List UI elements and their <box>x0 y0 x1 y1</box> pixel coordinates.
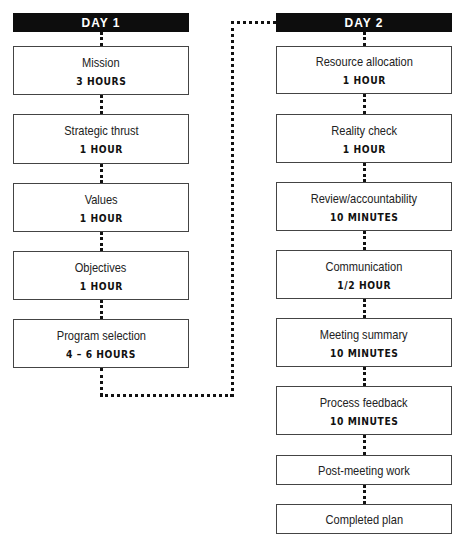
connector-day2-3 <box>363 231 366 250</box>
step-title: Strategic thrust <box>64 123 138 138</box>
step-title: Resource allocation <box>315 54 412 69</box>
day-2-label: DAY 2 <box>344 16 383 30</box>
step-title: Mission <box>82 55 120 70</box>
step-duration: 3 HOURS <box>76 76 126 87</box>
step-duration: 4 – 6 HOURS <box>66 349 136 360</box>
day-1-header: DAY 1 <box>13 13 189 32</box>
step-process-feedback: Process feedback 10 MINUTES <box>276 386 452 435</box>
connector-day-transition-bottom <box>100 394 233 397</box>
step-reality-check: Reality check 1 HOUR <box>276 114 452 163</box>
step-title: Post-meeting work <box>318 463 410 478</box>
step-duration: 10 MINUTES <box>330 212 398 223</box>
step-duration: 1/2 HOUR <box>337 280 391 291</box>
step-duration: 10 MINUTES <box>330 348 398 359</box>
connector-day2-0 <box>363 32 366 46</box>
step-program-selection: Program selection 4 – 6 HOURS <box>13 319 189 368</box>
connector-day2-1 <box>363 94 366 114</box>
step-communication: Communication 1/2 HOUR <box>276 250 452 299</box>
step-strategic-thrust: Strategic thrust 1 HOUR <box>13 114 189 164</box>
step-duration: 1 HOUR <box>342 144 385 155</box>
step-duration: 1 HOUR <box>79 144 122 155</box>
connector-day2-2 <box>363 163 366 182</box>
connector-day1-4 <box>100 300 103 319</box>
day-2-header: DAY 2 <box>276 13 452 32</box>
step-values: Values 1 HOUR <box>13 183 189 232</box>
step-objectives: Objectives 1 HOUR <box>13 251 189 300</box>
connector-day-transition-up <box>231 21 234 397</box>
step-title: Objectives <box>75 260 127 275</box>
connector-day1-0 <box>100 32 103 46</box>
step-mission: Mission 3 HOURS <box>13 46 189 95</box>
day-1-label: DAY 1 <box>81 16 120 30</box>
connector-day1-1 <box>100 95 103 114</box>
step-title: Reality check <box>331 123 397 138</box>
connector-day1-3 <box>100 232 103 251</box>
step-title: Values <box>84 192 117 207</box>
step-meeting-summary: Meeting summary 10 MINUTES <box>276 318 452 367</box>
connector-day2-4 <box>363 299 366 318</box>
step-duration: 1 HOUR <box>79 213 122 224</box>
step-duration: 1 HOUR <box>79 281 122 292</box>
step-duration: 10 MINUTES <box>330 416 398 427</box>
step-completed-plan: Completed plan <box>276 504 452 534</box>
step-title: Review/accountability <box>311 191 417 206</box>
step-title: Communication <box>326 259 403 274</box>
step-title: Meeting summary <box>320 327 408 342</box>
connector-day-transition-top <box>231 21 276 24</box>
connector-day1-2 <box>100 164 103 183</box>
connector-day2-7 <box>363 485 366 504</box>
step-duration: 1 HOUR <box>342 75 385 86</box>
step-post-meeting-work: Post-meeting work <box>276 455 452 485</box>
connector-day2-5 <box>363 367 366 386</box>
step-title: Completed plan <box>325 512 403 527</box>
step-resource-allocation: Resource allocation 1 HOUR <box>276 46 452 94</box>
step-title: Program selection <box>56 328 145 343</box>
step-review-accountability: Review/accountability 10 MINUTES <box>276 182 452 231</box>
step-title: Process feedback <box>320 395 408 410</box>
connector-day2-6 <box>363 435 366 455</box>
connector-day-transition-down <box>100 368 103 396</box>
